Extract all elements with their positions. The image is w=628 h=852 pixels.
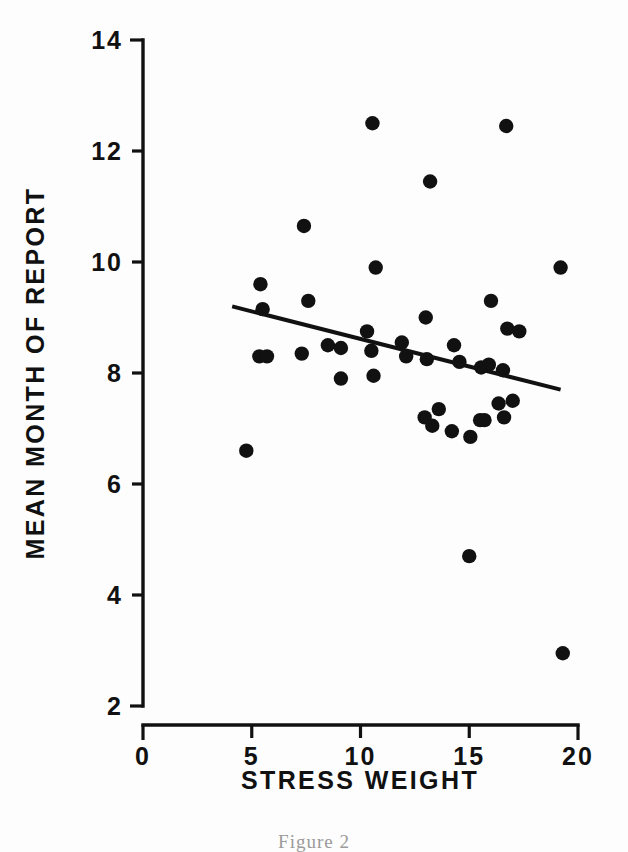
y-axis-title: MEAN MONTH OF REPORT [21, 187, 49, 560]
y-tick-label: 4 [107, 581, 123, 609]
data-point [253, 277, 267, 291]
data-point [553, 260, 567, 274]
axes-group [143, 40, 578, 725]
regression-trendline [232, 306, 560, 389]
data-point [432, 402, 446, 416]
y-tick-label: 2 [107, 692, 123, 720]
data-point [512, 324, 526, 338]
data-point [295, 346, 309, 360]
y-tick-label: 10 [91, 248, 123, 276]
data-point [463, 430, 477, 444]
data-point [556, 646, 570, 660]
data-point [445, 424, 459, 438]
data-point [447, 338, 461, 352]
x-tick-label: 0 [135, 742, 151, 770]
data-point [260, 349, 274, 363]
data-point [239, 444, 253, 458]
data-point [321, 338, 335, 352]
data-point [366, 369, 380, 383]
data-point [484, 294, 498, 308]
data-point [297, 219, 311, 233]
data-point [369, 260, 383, 274]
data-point [506, 394, 520, 408]
y-tick-label: 8 [107, 359, 123, 387]
figure-root: 2468101214 05101520 STRESS WEIGHT MEAN M… [0, 0, 628, 852]
data-point [365, 116, 379, 130]
y-tick-label: 14 [91, 26, 123, 54]
x-tick-label: 20 [562, 742, 594, 770]
data-point [497, 410, 511, 424]
data-point [419, 310, 433, 324]
data-point [334, 371, 348, 385]
data-point [499, 119, 513, 133]
y-tick-label: 6 [107, 470, 123, 498]
data-point [301, 294, 315, 308]
data-point [423, 174, 437, 188]
data-point [500, 321, 514, 335]
scatter-plot: 2468101214 05101520 STRESS WEIGHT MEAN M… [0, 0, 628, 852]
data-points-group [239, 116, 570, 660]
y-tick-label: 12 [91, 137, 123, 165]
y-tick-labels-group: 2468101214 [91, 26, 123, 720]
data-point [334, 341, 348, 355]
data-point [491, 396, 505, 410]
data-point [364, 344, 378, 358]
trendline-group [232, 306, 560, 389]
data-point [477, 413, 491, 427]
data-point [425, 419, 439, 433]
data-point [360, 324, 374, 338]
data-point [462, 549, 476, 563]
x-axis-title: STRESS WEIGHT [241, 766, 479, 794]
axis-ticks-group [130, 40, 578, 740]
figure-caption: Figure 2 [278, 831, 350, 852]
